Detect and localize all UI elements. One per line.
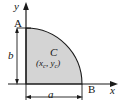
y-axis-label: y: [14, 1, 19, 12]
point-a-label: A: [14, 18, 22, 29]
coords-x-subscript: c: [43, 62, 46, 69]
dimension-b-label: b: [8, 50, 14, 61]
coords-y-subscript: c: [54, 62, 57, 69]
centroid-label: C: [50, 47, 57, 58]
x-axis-label: x: [110, 85, 115, 96]
figure-container: y x A B b a C (xc, yc): [0, 0, 122, 112]
centroid-coordinates-label: (xc, yc): [36, 59, 60, 68]
y-axis-arrowhead: [23, 2, 29, 10]
dimension-a-label: a: [48, 89, 54, 100]
point-b-label: B: [88, 84, 95, 95]
coords-close-paren: ): [57, 58, 60, 68]
